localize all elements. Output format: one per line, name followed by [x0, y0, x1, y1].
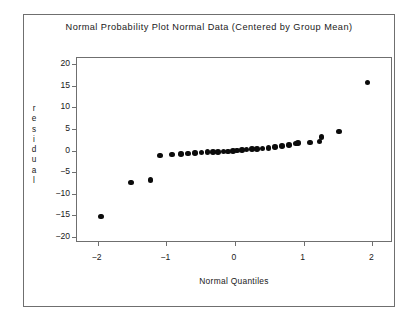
data-point [192, 150, 198, 156]
data-point [215, 149, 221, 155]
data-point [295, 140, 301, 146]
data-point [157, 153, 163, 159]
data-point [128, 180, 134, 186]
x-axis-labels: −2−1012 [76, 252, 392, 266]
data-point [266, 145, 272, 151]
x-axis-tick [304, 241, 305, 246]
y-axis-tick [72, 86, 77, 87]
y-axis-tick [72, 215, 77, 216]
y-axis-tick [72, 107, 77, 108]
plot-area [76, 57, 392, 242]
y-axis-tick-label: −15 [36, 209, 70, 219]
y-axis-tick-label: −5 [36, 166, 70, 176]
x-axis-tick [166, 241, 167, 246]
y-axis-tick-label: 15 [36, 80, 70, 90]
data-point [185, 151, 191, 157]
x-axis-tick-label: −1 [150, 252, 180, 262]
data-point [199, 150, 205, 156]
y-axis-labels: 20151050−5−10−15−20 [34, 57, 70, 242]
data-point [286, 142, 292, 148]
scatter-series [77, 58, 391, 241]
data-point [254, 146, 260, 152]
data-point [169, 152, 175, 158]
y-axis-tick-label: 0 [36, 145, 70, 155]
x-axis-title: Normal Quantiles [76, 276, 392, 286]
x-axis-tick [235, 241, 236, 246]
y-axis-tick-label: 10 [36, 101, 70, 111]
figure-canvas: Normal Probability Plot Normal Data (Cen… [0, 0, 417, 322]
data-point [272, 144, 278, 150]
y-axis-tick [72, 237, 77, 238]
data-point [336, 129, 342, 135]
x-axis-tick-label: 0 [219, 252, 249, 262]
data-point [260, 146, 266, 152]
y-axis-tick-label: 20 [36, 58, 70, 68]
y-axis-tick-label: −20 [36, 231, 70, 241]
data-point [279, 143, 285, 149]
y-axis-tick [72, 194, 77, 195]
y-axis-tick [72, 151, 77, 152]
x-axis-tick-label: 1 [288, 252, 318, 262]
page-title: Normal Probability Plot Normal Data (Cen… [23, 22, 395, 32]
data-point [98, 214, 104, 220]
y-axis-tick [72, 64, 77, 65]
data-point [307, 140, 313, 146]
data-point [319, 134, 325, 140]
y-axis-tick [72, 129, 77, 130]
data-point [148, 177, 154, 183]
x-axis-tick [372, 241, 373, 246]
data-point [365, 80, 371, 86]
x-axis-tick-label: −2 [82, 252, 112, 262]
x-axis-tick [98, 241, 99, 246]
data-point [178, 151, 184, 157]
y-axis-tick-label: 5 [36, 123, 70, 133]
y-axis-tick [72, 172, 77, 173]
y-axis-tick-label: −10 [36, 188, 70, 198]
x-axis-tick-label: 2 [356, 252, 386, 262]
